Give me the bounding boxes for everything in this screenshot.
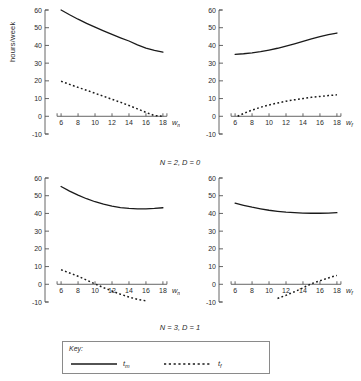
x-tick-label: 18 — [159, 287, 167, 294]
x-tick-label: 6 — [59, 287, 63, 294]
x-tick-label: 6 — [233, 119, 237, 126]
y-tick-label: 30 — [208, 60, 216, 67]
y-tick-label: 30 — [34, 228, 42, 235]
y-tick-label: 30 — [208, 228, 216, 235]
y-tick-label: 60 — [208, 175, 216, 182]
y-tick-label: 20 — [208, 77, 216, 84]
x-axis-label: wm — [172, 118, 180, 128]
y-tick-label: -10 — [206, 299, 216, 306]
y-tick-label: 0 — [38, 281, 42, 288]
x-tick-label: 8 — [250, 287, 254, 294]
figure-root: hours/week -100102030405060681012141618w… — [0, 0, 361, 381]
y-tick-label: 10 — [208, 95, 216, 102]
y-tick-label: 50 — [34, 192, 42, 199]
x-tick-label: 18 — [333, 287, 341, 294]
x-axis-label: wf — [346, 118, 353, 128]
y-tick-label: 0 — [212, 281, 216, 288]
y-tick-label: 20 — [34, 245, 42, 252]
legend-box: Key: tm tf — [62, 341, 270, 374]
y-tick-label: 60 — [34, 7, 42, 14]
y-tick-label: 20 — [34, 77, 42, 84]
x-tick-label: 6 — [59, 119, 63, 126]
x-axis-label: wm — [172, 286, 180, 296]
y-tick-label: 0 — [38, 113, 42, 120]
x-tick-label: 18 — [333, 119, 341, 126]
x-tick-label: 10 — [91, 287, 99, 294]
x-tick-label: 12 — [282, 119, 290, 126]
x-tick-label: 16 — [316, 287, 324, 294]
panel-top-left-plot: -100102030405060681012141618wm — [22, 4, 180, 150]
series-line-tm — [61, 10, 163, 52]
panel-bottom-right: -100102030405060681012141618wf — [196, 172, 354, 318]
legend-label-tf: tf — [218, 359, 222, 369]
y-tick-label: 40 — [34, 42, 42, 49]
caption-top: N = 2, D = 0 — [130, 158, 230, 167]
legend-title: Key: — [69, 345, 83, 352]
y-tick-label: 60 — [208, 7, 216, 14]
y-axis-label: hours/week — [8, 22, 17, 62]
y-tick-label: 10 — [34, 263, 42, 270]
y-tick-label: 40 — [34, 210, 42, 217]
y-tick-label: 60 — [34, 175, 42, 182]
x-tick-label: 16 — [316, 119, 324, 126]
x-tick-label: 18 — [159, 119, 167, 126]
x-tick-label: 8 — [76, 287, 80, 294]
x-tick-label: 14 — [125, 119, 133, 126]
legend-swatch-tf — [163, 360, 211, 368]
panel-top-left: -100102030405060681012141618wm — [22, 4, 180, 150]
y-tick-label: 40 — [208, 210, 216, 217]
x-tick-label: 16 — [142, 287, 150, 294]
series-line-tm — [61, 187, 163, 209]
legend-label-tm-subscript: m — [125, 363, 130, 369]
y-tick-label: 40 — [208, 42, 216, 49]
x-tick-label: 16 — [142, 119, 150, 126]
series-line-tm — [235, 203, 337, 213]
x-axis-label: wf — [346, 286, 353, 296]
x-tick-label: 8 — [250, 119, 254, 126]
panel-top-right: -100102030405060681012141618wf — [196, 4, 354, 150]
y-tick-label: 10 — [208, 263, 216, 270]
y-tick-label: 0 — [212, 113, 216, 120]
x-tick-label: 8 — [76, 119, 80, 126]
y-tick-label: -10 — [32, 131, 42, 138]
x-tick-label: 10 — [265, 287, 273, 294]
x-tick-label: 14 — [299, 119, 307, 126]
legend-label-tm: tm — [123, 359, 130, 369]
caption-bottom-text: N = 3, D = 1 — [160, 323, 200, 332]
caption-bottom: N = 3, D = 1 — [130, 323, 230, 332]
series-line-tm — [235, 33, 337, 54]
panel-bottom-left: -100102030405060681012141618wm — [22, 172, 180, 318]
y-tick-label: 50 — [34, 24, 42, 31]
legend-swatch-tm — [70, 360, 118, 368]
series-line-tf — [61, 81, 163, 116]
y-tick-label: -10 — [206, 131, 216, 138]
x-tick-label: 10 — [91, 119, 99, 126]
y-tick-label: -10 — [32, 299, 42, 306]
x-tick-label: 6 — [233, 287, 237, 294]
panel-bottom-right-plot: -100102030405060681012141618wf — [196, 172, 354, 318]
panel-top-right-plot: -100102030405060681012141618wf — [196, 4, 354, 150]
x-tick-label: 14 — [125, 287, 133, 294]
series-line-tf — [61, 270, 146, 301]
legend-label-tf-subscript: f — [220, 363, 222, 369]
y-tick-label: 50 — [208, 192, 216, 199]
y-tick-label: 20 — [208, 245, 216, 252]
panel-bottom-left-plot: -100102030405060681012141618wm — [22, 172, 180, 318]
y-tick-label: 50 — [208, 24, 216, 31]
x-tick-label: 12 — [108, 119, 116, 126]
x-tick-label: 12 — [282, 287, 290, 294]
x-tick-label: 14 — [299, 287, 307, 294]
y-tick-label: 10 — [34, 95, 42, 102]
series-line-tf — [238, 95, 337, 116]
y-tick-label: 30 — [34, 60, 42, 67]
caption-top-text: N = 2, D = 0 — [160, 158, 200, 167]
x-tick-label: 10 — [265, 119, 273, 126]
